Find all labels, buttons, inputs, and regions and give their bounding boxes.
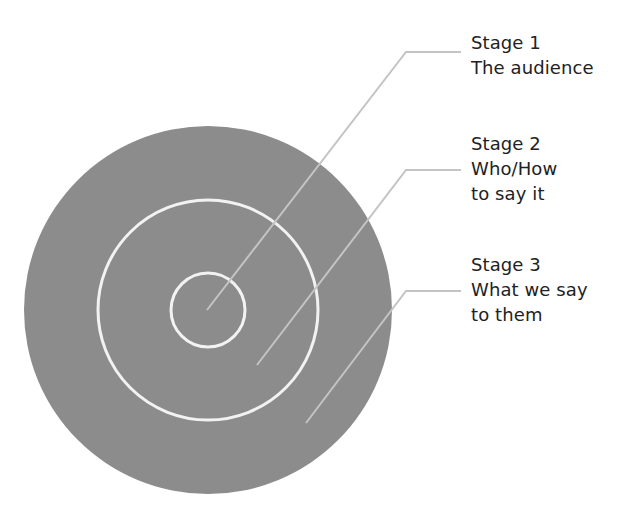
stage-1-title: Stage 1 [471,30,594,55]
stage-3-label: Stage 3 What we say to them [471,252,588,327]
stage-3-description-line-1: What we say [471,277,588,302]
stage-2-description-line-1: Who/How [471,156,557,181]
stage-2-title: Stage 2 [471,131,557,156]
stage-1-description-line-1: The audience [471,55,594,80]
stage-2-label: Stage 2 Who/How to say it [471,131,557,206]
stage-1-label: Stage 1 The audience [471,30,594,80]
stage-3-description-line-2: to them [471,302,588,327]
stage-2-description-line-2: to say it [471,181,557,206]
stage-3-title: Stage 3 [471,252,588,277]
